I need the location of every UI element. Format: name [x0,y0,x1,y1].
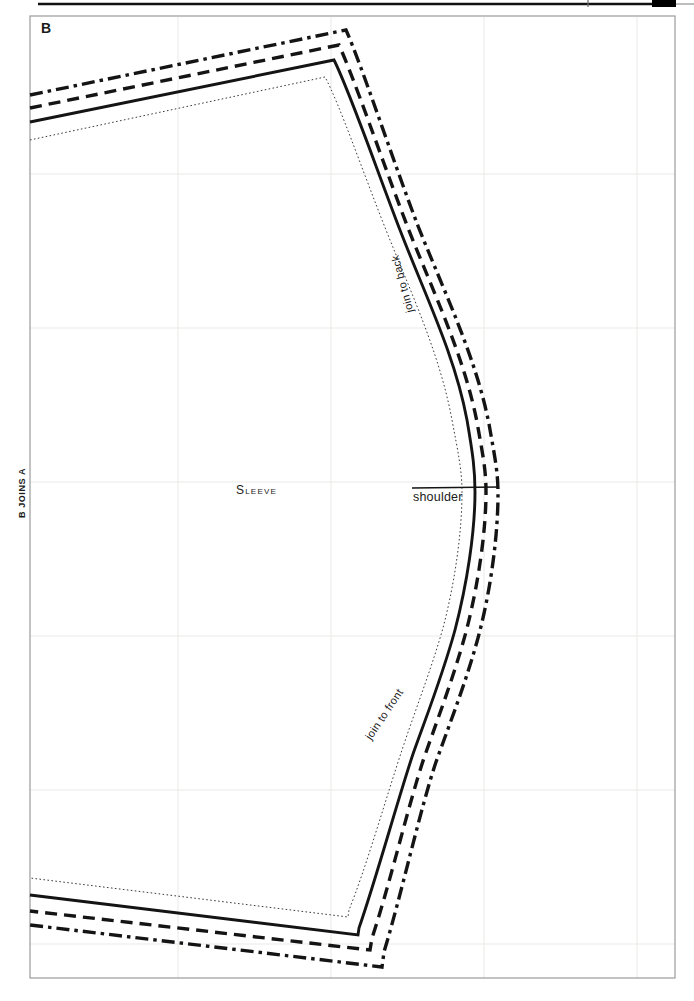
grid-lines [30,17,675,978]
section-label: B [41,20,52,36]
shoulder-label: shoulder [413,490,463,504]
page-corner-tab [652,0,676,7]
grid-frame [30,16,675,978]
page-header-rule [38,0,694,7]
pattern-sheet-page: B B JOINS A Sleeve shoulder join to back… [0,0,694,1001]
piece-name-label: Sleeve [236,483,277,497]
cutting-line-solid [30,60,475,935]
pattern-drawing [0,0,694,1001]
edge-join-note: B JOINS A [17,468,27,518]
